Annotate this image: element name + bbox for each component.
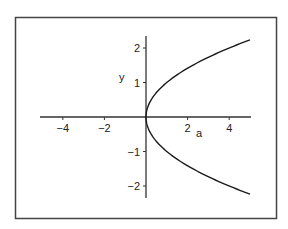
x-axis-label: a [196, 127, 203, 139]
x-tick-label: −2 [98, 122, 111, 134]
x-tick-label: 4 [226, 122, 232, 134]
y-tick-label: −2 [127, 180, 140, 192]
y-axis-label: y [119, 71, 125, 83]
chart: −4−224−2−112 a y [0, 0, 288, 229]
x-tick-label: 2 [185, 122, 191, 134]
x-tick-label: −4 [57, 122, 70, 134]
y-tick-label: 2 [134, 42, 140, 54]
y-tick-label: 1 [134, 77, 140, 89]
y-tick-label: −1 [127, 146, 140, 158]
